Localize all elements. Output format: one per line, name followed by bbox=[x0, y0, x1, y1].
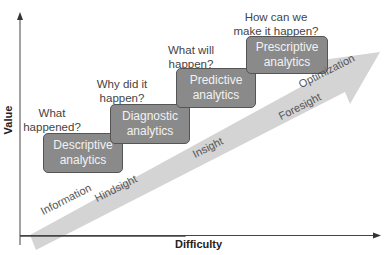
y-axis-arrowhead-icon bbox=[17, 12, 23, 20]
question-descriptive: What happened? bbox=[22, 106, 82, 134]
y-axis-label: Value bbox=[2, 106, 14, 135]
box-predictive-analytics: Predictiveanalytics bbox=[176, 68, 256, 108]
question-prescriptive: How can we make it happen? bbox=[226, 10, 326, 38]
x-axis-label: Difficulty bbox=[175, 238, 222, 250]
x-axis-arrowhead-icon bbox=[373, 233, 381, 239]
question-diagnostic: Why did it happen? bbox=[92, 77, 152, 105]
question-predictive: What will happen? bbox=[160, 43, 222, 71]
box-diagnostic-analytics: Diagnosticanalytics bbox=[110, 104, 190, 144]
